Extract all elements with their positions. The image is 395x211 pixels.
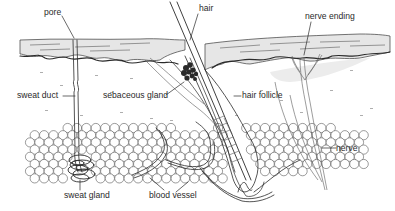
label-nerve: nerve: [336, 143, 358, 153]
label-sebaceous-gland: sebaceous gland: [103, 90, 168, 100]
label-blood-vessel: blood vessel: [149, 190, 197, 200]
label-sweat-gland: sweat gland: [64, 190, 110, 200]
label-sweat-duct: sweat duct: [17, 90, 59, 100]
sweat-gland: [68, 155, 95, 182]
label-hair-follicle: hair follicle: [242, 90, 283, 100]
label-hair: hair: [199, 3, 213, 13]
dermis-shading: [270, 58, 370, 82]
skin-cross-section-diagram: pore hair nerve ending sweat duct sebace…: [0, 0, 395, 211]
label-nerve-ending: nerve ending: [305, 11, 355, 21]
label-pore: pore: [44, 7, 61, 17]
